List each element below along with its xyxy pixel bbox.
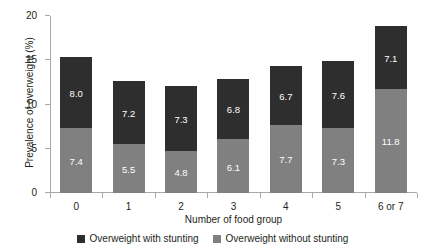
bar-value-label: 8.0 (70, 88, 83, 99)
bar-segment-without-stunting[interactable]: 7.4 (60, 128, 92, 193)
bar-value-label: 7.3 (332, 156, 345, 167)
x-tick-label: 0 (73, 201, 79, 212)
y-tick-label: 15 (26, 54, 37, 65)
x-tick (365, 193, 366, 198)
bar-value-label: 5.5 (122, 164, 135, 175)
legend-label: Overweight without stunting (226, 233, 349, 244)
x-tick (312, 193, 313, 198)
bar-value-label: 6.8 (227, 104, 240, 115)
bar-value-label: 7.2 (122, 108, 135, 119)
y-tick-label: 20 (26, 10, 37, 21)
x-tick-label: 4 (283, 201, 289, 212)
y-tick-label: 5 (31, 142, 37, 153)
x-tick (417, 193, 418, 198)
bar-segment-without-stunting[interactable]: 6.1 (217, 139, 249, 193)
bar-slot: 7.67.35 (312, 16, 364, 193)
stacked-bar-chart: Prevalence of overweight (%) 05101520 8.… (0, 0, 425, 251)
plot-area: 05101520 8.07.407.25.517.34.826.86.136.7… (50, 16, 417, 193)
bar-group: 8.07.407.25.517.34.826.86.136.77.747.67.… (50, 16, 417, 193)
bar-value-label: 6.7 (279, 91, 292, 102)
legend-item[interactable]: Overweight without stunting (213, 233, 349, 244)
bar-segment-with-stunting[interactable]: 8.0 (60, 57, 92, 128)
bar-value-label: 6.1 (227, 162, 240, 173)
bar-segment-without-stunting[interactable]: 11.8 (375, 89, 407, 193)
bar-value-label: 11.8 (382, 136, 400, 147)
x-tick (102, 193, 103, 198)
legend-item[interactable]: Overweight with stunting (77, 233, 199, 244)
bar-segment-without-stunting[interactable]: 4.8 (165, 151, 197, 193)
x-tick-label: 3 (231, 201, 237, 212)
bar-value-label: 7.3 (174, 114, 187, 125)
bar-slot: 7.111.86 or 7 (365, 16, 417, 193)
legend-swatch-icon (77, 235, 85, 243)
bar-segment-with-stunting[interactable]: 7.6 (322, 61, 354, 128)
bar-segment-with-stunting[interactable]: 7.1 (375, 26, 407, 89)
bar-segment-without-stunting[interactable]: 7.3 (322, 128, 354, 193)
bar-segment-with-stunting[interactable]: 6.8 (217, 79, 249, 139)
y-tick-label: 0 (31, 187, 37, 198)
stacked-bar[interactable]: 7.111.8 (375, 26, 407, 193)
bar-slot: 7.25.51 (102, 16, 154, 193)
stacked-bar[interactable]: 7.25.5 (113, 81, 145, 193)
stacked-bar[interactable]: 8.07.4 (60, 57, 92, 193)
bar-value-label: 7.1 (384, 53, 397, 64)
bar-segment-with-stunting[interactable]: 7.2 (113, 81, 145, 145)
bar-slot: 7.34.82 (155, 16, 207, 193)
bar-segment-without-stunting[interactable]: 7.7 (270, 125, 302, 193)
bar-segment-with-stunting[interactable]: 7.3 (165, 86, 197, 151)
x-tick-label: 2 (178, 201, 184, 212)
chart-legend: Overweight with stuntingOverweight witho… (0, 233, 425, 244)
x-tick (207, 193, 208, 198)
bar-value-label: 4.8 (174, 167, 187, 178)
bar-slot: 6.86.13 (207, 16, 259, 193)
stacked-bar[interactable]: 7.67.3 (322, 61, 354, 193)
bar-segment-without-stunting[interactable]: 5.5 (113, 144, 145, 193)
bar-slot: 6.77.74 (260, 16, 312, 193)
stacked-bar[interactable]: 6.86.1 (217, 79, 249, 193)
x-tick-label: 6 or 7 (378, 201, 404, 212)
stacked-bar[interactable]: 6.77.7 (270, 66, 302, 193)
bar-slot: 8.07.40 (50, 16, 102, 193)
legend-label: Overweight with stunting (90, 233, 199, 244)
x-tick (260, 193, 261, 198)
legend-swatch-icon (213, 235, 221, 243)
x-tick (155, 193, 156, 198)
x-tick (50, 193, 51, 198)
stacked-bar[interactable]: 7.34.8 (165, 86, 197, 193)
bar-value-label: 7.6 (332, 90, 345, 101)
x-axis-title: Number of food group (50, 214, 417, 225)
bar-value-label: 7.4 (70, 156, 83, 167)
y-tick-label: 10 (26, 98, 37, 109)
bar-segment-with-stunting[interactable]: 6.7 (270, 66, 302, 125)
x-tick-label: 1 (126, 201, 132, 212)
bar-value-label: 7.7 (279, 154, 292, 165)
x-tick-label: 5 (336, 201, 342, 212)
